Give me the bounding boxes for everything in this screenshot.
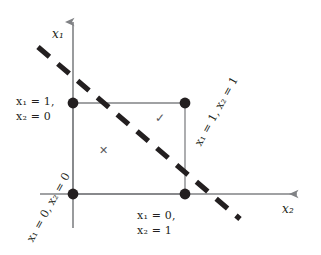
x-axis-label: x₂ bbox=[282, 203, 294, 216]
cross-mark: ✕ bbox=[99, 144, 108, 157]
vertex-label-top-left-line2: x₂ = 0 bbox=[16, 110, 51, 123]
vertex-bottom-right bbox=[180, 189, 191, 200]
unit-square-diagram: x₁ x₂ x₁ = 1, x₂ = 0 x₁ = 1, x₂ = 1 x₁ =… bbox=[0, 0, 321, 255]
vertex-bottom-left bbox=[68, 189, 79, 200]
vertex-top-right bbox=[180, 98, 191, 109]
vertex-label-bottom-right-line2: x₂ = 1 bbox=[137, 224, 172, 237]
vertex-label-bottom-right-line1: x₁ = 0, bbox=[137, 209, 176, 222]
y-axis-label: x₁ bbox=[52, 28, 64, 41]
check-mark: ✓ bbox=[155, 112, 165, 125]
vertex-label-top-left-line1: x₁ = 1, bbox=[16, 95, 55, 108]
vertex-top-left bbox=[68, 98, 79, 109]
